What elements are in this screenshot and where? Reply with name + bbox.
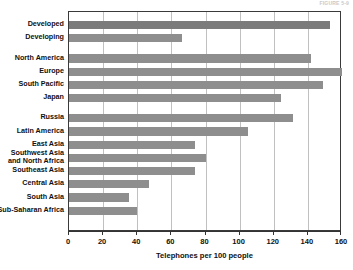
category-label: Developing [25,33,64,41]
bar [69,94,281,102]
bar [69,68,342,76]
figure-caption: FIGURE 5-9 [319,0,349,6]
category-label: East Asia [32,140,64,148]
bar [69,81,323,89]
tick-label-20: 20 [98,237,106,246]
category-label: Southwest Asia and North Africa [0,149,64,164]
category-label: Japan [43,93,64,101]
x-axis-tick-labels: 020406080100120140160 [68,237,341,247]
category-label-column: DevelopedDevelopingNorth AmericaEuropeSo… [0,11,66,231]
tick-mark-140 [307,231,308,235]
bar [69,127,248,135]
telephones-per-100-people-bar-chart: FIGURE 5-9 DevelopedDevelopingNorth Amer… [0,0,353,270]
tick-mark-0 [68,231,69,235]
tick-label-80: 80 [200,237,208,246]
tick-mark-40 [136,231,137,235]
category-label: Russia [40,113,64,121]
category-label: Southeast Asia [12,166,64,174]
category-label: Latin America [17,127,64,135]
bar [69,193,129,201]
bar [69,154,206,162]
bar [69,180,149,188]
tick-label-60: 60 [166,237,174,246]
category-label: Central Asia [22,179,64,187]
category-label: Europe [39,67,64,75]
tick-label-160: 160 [335,237,348,246]
category-label: Sub-Saharan Africa [0,206,64,214]
bar [69,21,330,29]
bar [69,207,137,215]
x-axis-title: Telephones per 100 people [68,251,341,260]
plot-area [68,11,341,231]
tick-mark-80 [205,231,206,235]
category-label: South Pacific [18,80,64,88]
bar [69,34,182,42]
tick-label-100: 100 [232,237,245,246]
tick-label-0: 0 [66,237,70,246]
category-label: Developed [28,20,64,28]
bar [69,141,195,149]
tick-label-120: 120 [266,237,279,246]
tick-label-140: 140 [301,237,314,246]
bar [69,54,311,62]
tick-mark-120 [273,231,274,235]
x-axis [68,231,341,236]
category-label: South Asia [27,193,64,201]
tick-mark-160 [340,231,341,235]
tick-label-40: 40 [132,237,140,246]
bar [69,167,195,175]
bars-layer [69,12,340,230]
tick-mark-20 [102,231,103,235]
category-label: North America [15,54,64,62]
tick-mark-100 [239,231,240,235]
bar [69,114,293,122]
tick-mark-60 [170,231,171,235]
